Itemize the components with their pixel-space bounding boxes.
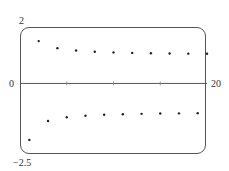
data-point [28, 139, 30, 141]
data-point [38, 40, 40, 42]
data-point [168, 52, 170, 54]
data-point [150, 52, 152, 54]
data-point [131, 52, 133, 54]
data-point [159, 112, 161, 114]
data-point [140, 113, 142, 115]
data-point [196, 112, 198, 114]
data-point [56, 47, 58, 49]
data-point [94, 50, 96, 52]
data-point [75, 49, 77, 51]
data-point [103, 114, 105, 116]
data-point [84, 115, 86, 117]
data-point [122, 113, 124, 115]
data-point [178, 112, 180, 114]
data-point [66, 116, 68, 118]
data-point [187, 52, 189, 54]
data-point [47, 120, 49, 122]
scatter-plot [0, 0, 229, 171]
data-point [206, 53, 208, 55]
data-point [112, 51, 114, 53]
